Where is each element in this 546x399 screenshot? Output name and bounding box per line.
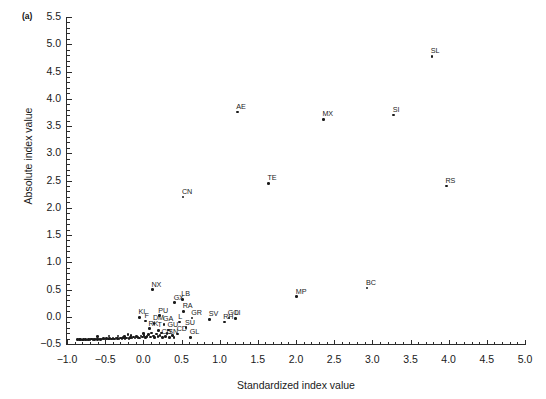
y-axis-minor-tick bbox=[67, 66, 70, 67]
x-axis-minor-tick bbox=[479, 342, 480, 345]
data-point-labeled bbox=[223, 321, 226, 324]
x-axis-tick bbox=[487, 340, 488, 345]
y-axis-tick bbox=[67, 317, 72, 318]
data-point-labeled bbox=[322, 118, 325, 121]
x-axis-minor-tick bbox=[98, 342, 99, 345]
x-axis-minor-tick bbox=[265, 342, 266, 345]
x-axis-minor-tick bbox=[136, 342, 137, 345]
y-axis-minor-tick bbox=[67, 230, 70, 231]
data-point-labeled bbox=[173, 301, 176, 304]
y-axis-minor-tick bbox=[67, 224, 70, 225]
y-axis-minor-tick bbox=[67, 61, 70, 62]
y-axis-minor-tick bbox=[67, 322, 70, 323]
y-axis-tick bbox=[67, 181, 72, 182]
y-axis-tick-label: 0.5 bbox=[15, 283, 61, 295]
y-axis-tick-label: −0.5 bbox=[15, 337, 61, 349]
x-axis-tick bbox=[525, 340, 526, 345]
y-axis-minor-tick bbox=[67, 28, 70, 29]
x-axis-minor-tick bbox=[151, 342, 152, 345]
data-point-labeled bbox=[157, 329, 160, 332]
x-axis-minor-tick bbox=[517, 342, 518, 345]
y-axis-minor-tick bbox=[67, 300, 70, 301]
data-point bbox=[173, 336, 176, 339]
y-axis-tick-label: 2.0 bbox=[15, 201, 61, 213]
x-axis-minor-tick bbox=[472, 342, 473, 345]
y-axis-tick-label: 1.5 bbox=[15, 228, 61, 240]
x-axis-minor-tick bbox=[494, 342, 495, 345]
data-point-labeled bbox=[182, 310, 185, 313]
x-axis-minor-tick bbox=[311, 342, 312, 345]
x-axis-minor-tick bbox=[395, 342, 396, 345]
y-axis-tick-label: 5.5 bbox=[15, 10, 61, 22]
x-axis-tick bbox=[449, 340, 450, 345]
data-point-label: CN bbox=[182, 187, 192, 196]
x-axis-minor-tick bbox=[502, 342, 503, 345]
data-point-label: MP bbox=[296, 287, 307, 296]
x-axis-tick bbox=[334, 340, 335, 345]
y-axis-minor-tick bbox=[67, 88, 70, 89]
x-axis-tick bbox=[182, 340, 183, 345]
data-point-labeled bbox=[178, 321, 181, 324]
x-axis-minor-tick bbox=[380, 342, 381, 345]
y-axis-tick-label: 3.0 bbox=[15, 146, 61, 158]
x-axis-minor-tick bbox=[319, 342, 320, 345]
y-axis-minor-tick bbox=[67, 55, 70, 56]
data-point-labeled bbox=[431, 55, 434, 58]
x-axis-minor-tick bbox=[327, 342, 328, 345]
x-axis-minor-tick bbox=[357, 342, 358, 345]
x-axis-minor-tick bbox=[82, 342, 83, 345]
y-axis-minor-tick bbox=[67, 328, 70, 329]
y-axis-minor-tick bbox=[67, 93, 70, 94]
data-point-labeled bbox=[144, 320, 147, 323]
y-axis-minor-tick bbox=[67, 273, 70, 274]
y-axis-tick-label: 4.5 bbox=[15, 65, 61, 77]
x-axis-minor-tick bbox=[510, 342, 511, 345]
x-axis-minor-tick bbox=[235, 342, 236, 345]
x-axis-minor-tick bbox=[120, 342, 121, 345]
y-axis-minor-tick bbox=[67, 137, 70, 138]
y-axis-minor-tick bbox=[67, 148, 70, 149]
data-point bbox=[150, 332, 153, 335]
y-axis-minor-tick bbox=[67, 333, 70, 334]
data-point-label: CD bbox=[177, 324, 187, 333]
y-axis-minor-tick bbox=[67, 240, 70, 241]
x-axis-minor-tick bbox=[204, 342, 205, 345]
y-axis-minor-tick bbox=[67, 202, 70, 203]
y-axis-minor-tick bbox=[67, 77, 70, 78]
x-axis-minor-tick bbox=[456, 342, 457, 345]
y-axis-tick-label: 5.0 bbox=[15, 37, 61, 49]
x-axis-tick bbox=[411, 340, 412, 345]
y-axis-tick-label: 1.0 bbox=[15, 255, 61, 267]
x-axis-tick-labels: −1.0−0.50.00.51.01.52.02.53.03.54.04.55.… bbox=[67, 353, 525, 369]
data-point-label: MX bbox=[322, 109, 333, 118]
x-axis-tick bbox=[220, 340, 221, 345]
y-axis-minor-tick bbox=[67, 284, 70, 285]
y-axis-minor-tick bbox=[67, 268, 70, 269]
x-axis-minor-tick bbox=[189, 342, 190, 345]
y-axis-minor-tick bbox=[67, 262, 70, 263]
y-axis-tick-labels: 5.55.04.54.03.53.02.52.01.51.00.50.0−0.5 bbox=[11, 17, 61, 344]
y-axis-minor-tick bbox=[67, 17, 70, 18]
data-point-labeled bbox=[295, 295, 298, 298]
y-axis-minor-tick bbox=[67, 159, 70, 160]
y-axis-minor-tick bbox=[67, 295, 70, 296]
y-axis-tick bbox=[67, 126, 72, 127]
y-axis-minor-tick bbox=[67, 251, 70, 252]
data-point-label: GR bbox=[191, 308, 202, 317]
x-axis-minor-tick bbox=[464, 342, 465, 345]
data-point-labeled bbox=[392, 114, 395, 117]
y-axis-minor-tick bbox=[67, 246, 70, 247]
x-axis-minor-tick bbox=[174, 342, 175, 345]
data-point-label: AE bbox=[236, 102, 245, 111]
data-point-label: GL bbox=[190, 327, 199, 336]
x-axis-title: Standardized index value bbox=[67, 379, 525, 391]
x-axis-tick bbox=[67, 340, 68, 345]
data-point-labeled bbox=[151, 288, 154, 291]
y-axis-minor-tick bbox=[67, 131, 70, 132]
x-axis-minor-tick bbox=[128, 342, 129, 345]
x-axis-minor-tick bbox=[212, 342, 213, 345]
x-axis-minor-tick bbox=[304, 342, 305, 345]
x-axis-minor-tick bbox=[418, 342, 419, 345]
x-axis-minor-tick bbox=[159, 342, 160, 345]
y-axis-minor-tick bbox=[67, 44, 70, 45]
